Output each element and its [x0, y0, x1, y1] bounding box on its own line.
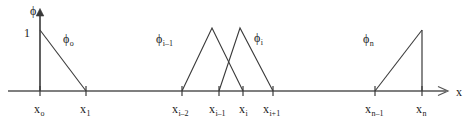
node-label-x0: xo	[34, 100, 44, 118]
node-label-xi-sub: i	[245, 109, 248, 118]
x-axis-label-text: x	[456, 85, 462, 99]
node-label-xn-sub: n	[422, 109, 426, 118]
x-axis-label: x	[456, 83, 462, 99]
phi-i-label-sub: i	[260, 38, 263, 47]
phi-i-minus-1-triangle	[182, 28, 243, 91]
node-label-xi-plus-1: xi+1	[263, 100, 280, 118]
y-tick-label-1: 1	[24, 24, 30, 40]
phi-i-minus-1-label-sub: i–1	[162, 39, 173, 48]
y-axis-arrowhead	[36, 9, 44, 17]
phi-n-label: ϕn	[363, 30, 374, 48]
node-label-x1-sub: 1	[86, 109, 90, 118]
phi-i-minus-1-label: ϕi–1	[156, 30, 173, 48]
phi0-label: ϕo	[63, 30, 74, 48]
node-label-x0-sub: o	[40, 109, 44, 118]
phi-n-label-sub: n	[369, 39, 373, 48]
y-axis-label-text: ϕ	[30, 4, 36, 18]
phi-n-ramp	[375, 30, 422, 91]
node-label-xi-minus-1: xi–1	[209, 100, 226, 118]
node-label-xn-minus-1-sub: n–1	[371, 109, 383, 118]
node-label-xi-minus-1-sub: i–1	[215, 109, 226, 118]
node-label-x1: x1	[80, 100, 90, 118]
node-label-xi: xi	[239, 100, 248, 118]
phi-i-label: ϕi	[254, 29, 263, 47]
node-label-xi-minus-2: xi–2	[172, 100, 189, 118]
node-label-xi-minus-2-sub: i–2	[178, 109, 189, 118]
y-axis-label: ϕ	[30, 2, 36, 18]
diagram-canvas	[0, 0, 471, 131]
node-label-xn: xn	[416, 100, 426, 118]
phi0-label-sub: o	[69, 39, 73, 48]
node-label-xi-plus-1-sub: i+1	[269, 109, 280, 118]
basis-function-diagram: ϕ 1 x ϕo ϕi–1 ϕi ϕn xo x1 xi–2 xi–1 xi x…	[0, 0, 471, 131]
y-tick-value: 1	[24, 26, 30, 40]
node-label-xn-minus-1: xn–1	[365, 100, 383, 118]
